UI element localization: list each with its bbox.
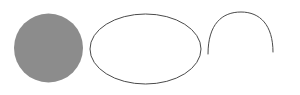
shapes-figure — [0, 0, 300, 95]
filled-circle-shape — [14, 14, 83, 83]
figure-canvas — [0, 0, 300, 95]
